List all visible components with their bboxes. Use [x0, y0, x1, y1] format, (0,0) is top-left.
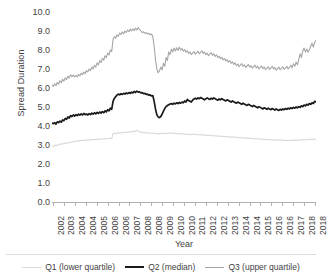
x-axis-tick: [293, 202, 294, 206]
x-axis-tick: [140, 202, 141, 206]
x-axis-tick: [64, 202, 65, 206]
plot-area: [52, 12, 316, 202]
y-axis-tick-label: 3.0: [37, 140, 50, 150]
x-axis-tick: [75, 202, 76, 206]
series-line: [52, 130, 316, 146]
legend-label: Q3 (upper quartile): [228, 262, 299, 272]
x-axis-tick: [162, 202, 163, 206]
x-axis-tick: [250, 202, 251, 206]
x-axis-tick-label: 2008: [144, 216, 153, 235]
y-axis-tick-label: 6.0: [37, 83, 50, 93]
y-axis-tick-label: 10.0: [32, 7, 50, 17]
x-axis-tick: [151, 202, 152, 206]
x-axis-ticks: [52, 202, 316, 206]
x-axis-tick: [315, 202, 316, 206]
x-axis-tick-label: 2013: [231, 216, 240, 235]
x-axis-tick: [304, 202, 305, 206]
legend-item[interactable]: Q1 (lower quartile): [22, 262, 115, 272]
series-line: [52, 91, 316, 124]
x-axis-tick: [184, 202, 185, 206]
x-axis-tick-label: 2003: [67, 216, 76, 235]
x-axis-tick-label: 2004: [78, 216, 87, 235]
legend-line-swatch: [22, 267, 41, 268]
x-axis-tick-label: 2017: [297, 216, 306, 235]
legend-line-swatch: [125, 266, 144, 268]
y-axis-tick-label: 2.0: [37, 159, 50, 169]
x-axis-tick: [195, 202, 196, 206]
x-axis-tick-label: 2016: [286, 216, 295, 235]
y-axis-tick-label: 4.0: [37, 121, 50, 131]
y-axis-tick-label: 0.0: [37, 197, 50, 207]
x-axis-tick-label: 2012: [220, 216, 229, 235]
legend-divider: [6, 254, 316, 255]
x-axis-tick-label: 2010: [188, 216, 197, 235]
legend-item[interactable]: Q3 (upper quartile): [205, 262, 299, 272]
x-axis-tick-label: 2002: [57, 216, 66, 235]
x-axis-tick: [239, 202, 240, 206]
x-axis-tick-label: 2006: [111, 216, 120, 235]
x-axis-tick-label: 2010: [177, 216, 186, 235]
legend-line-swatch: [205, 267, 224, 268]
x-axis-title: Year: [52, 239, 316, 249]
x-axis-tick: [119, 202, 120, 206]
y-axis-tick-label: 8.0: [37, 45, 50, 55]
chart-legend: Q1 (lower quartile)Q2 (median)Q3 (upper …: [6, 259, 316, 275]
y-axis-tick-label: 7.0: [37, 64, 50, 74]
x-axis-tick-label: 2016: [275, 216, 284, 235]
x-axis-tick: [206, 202, 207, 206]
x-axis-tick-label: 2018: [308, 216, 317, 235]
y-axis-tick-labels: 0.01.02.03.04.05.06.07.08.09.010.0: [22, 7, 50, 203]
x-axis-tick: [260, 202, 261, 206]
x-axis-tick-label: 2012: [209, 216, 218, 235]
x-axis-tick: [271, 202, 272, 206]
y-axis-tick-label: 1.0: [37, 178, 50, 188]
x-axis-tick: [97, 202, 98, 206]
legend-item[interactable]: Q2 (median): [125, 262, 195, 272]
x-axis-tick: [217, 202, 218, 206]
x-axis-tick: [282, 202, 283, 206]
x-axis-tick-label: 2008: [155, 216, 164, 235]
x-axis-tick: [86, 202, 87, 206]
legend-label: Q1 (lower quartile): [45, 262, 115, 272]
x-axis-tick-label: 2014: [242, 216, 251, 235]
x-axis-tick: [129, 202, 130, 206]
x-axis-tick-label: 2018: [319, 216, 328, 235]
y-axis-tick-label: 5.0: [37, 102, 50, 112]
x-axis-tick-label: 2004: [89, 216, 98, 235]
series-line: [52, 28, 316, 87]
x-axis-tick-label: 2015: [264, 216, 273, 235]
x-axis-tick-label: 2011: [198, 217, 207, 235]
x-axis-tick-label: 2009: [166, 216, 175, 235]
x-axis-tick: [108, 202, 109, 206]
x-axis-tick-label: 2007: [133, 216, 142, 235]
x-axis-tick-labels: 2002200320042004200520062006200720082008…: [52, 207, 316, 237]
x-axis-tick: [228, 202, 229, 206]
x-axis-tick: [173, 202, 174, 206]
x-axis-tick-label: 2006: [122, 216, 131, 235]
legend-label: Q2 (median): [148, 262, 195, 272]
plot-svg: [52, 12, 316, 202]
y-axis-tick-label: 9.0: [37, 26, 50, 36]
x-axis-tick-label: 2014: [253, 216, 262, 235]
x-axis-tick: [53, 202, 54, 206]
x-axis-tick-label: 2005: [100, 216, 109, 235]
